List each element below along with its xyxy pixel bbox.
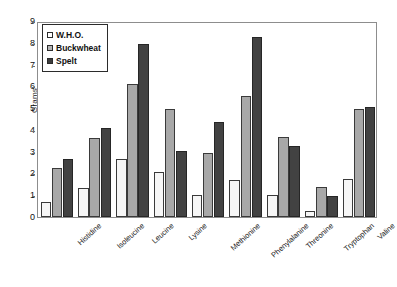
bar [192, 195, 203, 217]
legend-swatch-icon [47, 45, 53, 51]
bar [343, 179, 354, 217]
chart-legend: W.H.O.BuckwheatSpelt [42, 24, 108, 72]
bar [63, 159, 74, 217]
y-tick-mark [32, 153, 35, 154]
bar-group [340, 23, 377, 217]
bar [267, 195, 278, 217]
x-tick-mark [76, 217, 77, 218]
x-axis-label: Isoleucine [115, 222, 145, 251]
legend-swatch-icon [47, 58, 53, 64]
legend-swatch-icon [47, 32, 53, 38]
x-tick-mark [265, 217, 266, 218]
bar [241, 96, 252, 217]
x-tick-mark [189, 217, 190, 218]
x-axis-labels: HistidineIsoleucineLeucineLysineMethioni… [37, 222, 377, 284]
bar [41, 202, 52, 217]
y-axis-ticks: 0123456789 [16, 22, 35, 218]
bar [327, 196, 338, 217]
bar-group [265, 23, 303, 217]
x-axis-label: Lysine [188, 222, 209, 242]
bar [252, 37, 263, 217]
bar [176, 151, 187, 217]
bar [78, 188, 89, 217]
y-tick-mark [32, 44, 35, 45]
legend-label: W.H.O. [56, 31, 83, 40]
bar [154, 172, 165, 217]
x-axis-label: Phenylalanine [270, 222, 310, 259]
bar [354, 109, 365, 217]
bar [52, 168, 63, 217]
bar [89, 138, 100, 217]
x-axis-label: Leucine [151, 222, 176, 246]
bar [365, 107, 376, 217]
x-tick-mark [302, 217, 303, 218]
y-tick-mark [32, 174, 35, 175]
bar-group [227, 23, 265, 217]
bar [278, 137, 289, 217]
y-tick-label: 0 [21, 213, 35, 222]
bar-group [189, 23, 227, 217]
bar [165, 109, 176, 217]
legend-label: Buckwheat [56, 44, 101, 53]
bar [214, 122, 225, 217]
y-tick-mark [32, 109, 35, 110]
x-axis-label: Tryptophan [343, 222, 376, 253]
x-axis-label: Histidine [76, 222, 103, 247]
bar [127, 84, 138, 217]
x-tick-mark [227, 217, 228, 218]
bar [289, 146, 300, 217]
bar-group [302, 23, 340, 217]
legend-label: Spelt [56, 57, 77, 66]
bar-group [114, 23, 152, 217]
bar [229, 180, 240, 217]
bar [305, 211, 316, 217]
bar [138, 44, 149, 217]
legend-item: Spelt [47, 55, 101, 67]
x-axis-label: Valine [376, 222, 396, 242]
y-tick-mark [32, 131, 35, 132]
bar [101, 128, 112, 217]
bar-group [151, 23, 189, 217]
bar [116, 159, 127, 217]
legend-item: Buckwheat [47, 42, 101, 54]
x-tick-mark [340, 217, 341, 218]
y-tick-mark [32, 66, 35, 67]
x-tick-mark [151, 217, 152, 218]
y-tick-mark [32, 87, 35, 88]
legend-item: W.H.O. [47, 29, 101, 41]
bar [203, 153, 214, 217]
y-tick-mark [32, 22, 35, 23]
y-tick-mark [32, 196, 35, 197]
x-axis-label: Methionine [229, 222, 262, 253]
x-tick-mark [114, 217, 115, 218]
bar [316, 187, 327, 217]
